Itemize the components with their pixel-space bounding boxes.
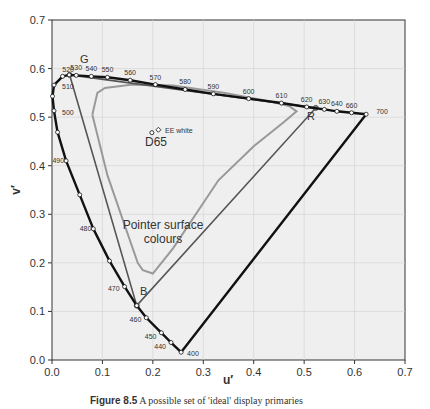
wavelength-label: 600 — [243, 88, 255, 95]
y-tick-label: 0.4 — [30, 160, 45, 172]
wavelength-label: 400 — [187, 350, 199, 357]
y-tick-label: 0.1 — [30, 305, 45, 317]
wavelength-label: 490 — [52, 157, 64, 164]
wavelength-label: 450 — [145, 333, 157, 340]
x-tick-label: 0.6 — [347, 366, 362, 378]
x-tick-label: 0.7 — [397, 366, 412, 378]
wavelength-label: 480 — [80, 225, 92, 232]
x-tick-label: 0.1 — [95, 366, 110, 378]
label-r: R — [307, 110, 315, 122]
x-tick-label: 0.4 — [246, 366, 261, 378]
wavelength-label: 590 — [208, 83, 220, 90]
label-ee-white: EE white — [165, 127, 193, 134]
x-axis-label: u′ — [223, 373, 233, 387]
x-tick-label: 0.5 — [296, 366, 311, 378]
wavelength-label: 630 — [318, 98, 330, 105]
wavelength-label: 700 — [376, 108, 388, 115]
wavelength-label: 470 — [108, 285, 120, 292]
x-tick-label: 0.0 — [44, 366, 59, 378]
wavelength-label: 500 — [62, 109, 74, 116]
label-b: B — [140, 285, 147, 297]
wavelength-label: 530 — [70, 64, 82, 71]
label-pointer-2: colours — [144, 232, 183, 246]
x-tick-label: 0.2 — [145, 366, 160, 378]
y-tick-label: 0.2 — [30, 257, 45, 269]
wavelength-label: 540 — [85, 65, 97, 72]
wavelength-label: 570 — [150, 74, 162, 81]
wavelength-label: 640 — [331, 100, 343, 107]
wavelength-label: 550 — [102, 66, 114, 73]
wavelength-label: 510 — [62, 83, 74, 90]
wavelength-label: 560 — [124, 69, 136, 76]
y-axis-label: v′ — [9, 185, 23, 195]
wavelength-label: 610 — [276, 92, 288, 99]
y-tick-label: 0.6 — [30, 63, 45, 75]
y-tick-label: 0.7 — [30, 14, 45, 26]
wavelength-label: 660 — [346, 102, 358, 109]
wavelength-label: 440 — [154, 343, 166, 350]
caption-number: Figure 8.5 — [90, 395, 137, 406]
label-pointer-1: Pointer surface — [123, 218, 204, 232]
cie-uv-chromaticity-chart: 4004404504604704804905005105205305405505… — [0, 0, 430, 409]
wavelength-label: 460 — [130, 316, 142, 323]
wavelength-label: 580 — [179, 78, 191, 85]
label-g: G — [80, 53, 89, 65]
figure-caption: Figure 8.5 A possible set of 'ideal' dis… — [90, 395, 303, 406]
x-tick-label: 0.3 — [196, 366, 211, 378]
y-tick-label: 0.5 — [30, 111, 45, 123]
wavelength-label: 620 — [301, 96, 313, 103]
caption-text: A possible set of 'ideal' display primar… — [139, 395, 303, 406]
y-tick-label: 0.0 — [30, 354, 45, 366]
y-tick-label: 0.3 — [30, 208, 45, 220]
label-d65: D65 — [145, 135, 167, 149]
